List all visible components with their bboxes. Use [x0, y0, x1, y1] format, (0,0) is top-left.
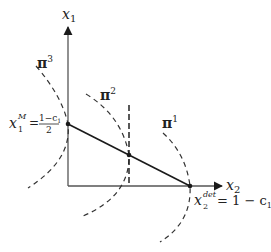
svg-text:2: 2	[203, 202, 208, 211]
deterrence-annotation: x det 2 = 1 − c1	[194, 190, 271, 211]
label-pi2: π2	[100, 86, 116, 103]
isoprofit-curve-pi2	[83, 94, 129, 216]
intersection-point	[127, 153, 132, 158]
svg-text:x: x	[194, 192, 202, 208]
svg-text:M: M	[17, 112, 27, 121]
svg-text:2: 2	[46, 125, 52, 135]
label-pi1: π1	[162, 114, 178, 131]
svg-text:1−c1: 1−c1	[39, 113, 61, 124]
svg-text:=: =	[29, 116, 39, 130]
label-pi3: π3	[37, 54, 53, 71]
svg-text:1: 1	[18, 125, 23, 134]
deterrence-point	[188, 184, 193, 189]
monopoly-annotation: x M 1 = 1−c1 2	[9, 112, 61, 135]
diagram-canvas: x1 x2 π3 π2 π1 x M 1 = 1−c1 2 x det 2	[0, 0, 271, 252]
svg-text:= 1 − c1: = 1 − c1	[217, 193, 271, 210]
svg-text:x: x	[9, 115, 17, 131]
monopoly-point	[66, 122, 71, 127]
svg-text:det: det	[203, 190, 217, 199]
isoprofit-curve-pi1	[160, 133, 190, 242]
y-axis-label: x1	[62, 6, 76, 24]
